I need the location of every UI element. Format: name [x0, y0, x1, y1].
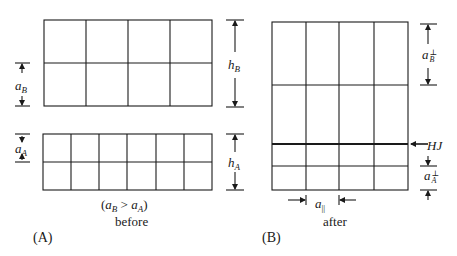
panel-label-b: (B) [262, 231, 281, 245]
label-a-par-sub: || [322, 203, 326, 213]
cond-a1: a [105, 197, 112, 212]
diagram-canvas [0, 0, 457, 256]
label-h-b-base: h [228, 57, 235, 72]
label-a-b-perp: a⊥B [422, 48, 437, 63]
label-a-b-perp-scripts: ⊥B [430, 49, 438, 63]
panel-label-a: (A) [33, 231, 52, 245]
label-a-a-sub: A [22, 148, 28, 158]
cond-s2: A [138, 204, 144, 214]
label-a-par: a|| [315, 197, 325, 210]
label-a-a-perp: a⊥A [424, 169, 439, 184]
grid-a-before [43, 134, 212, 190]
paren-close: ) [143, 197, 147, 212]
grid-b-before [44, 20, 212, 106]
label-a-b-perp-base: a [422, 47, 429, 62]
perp-sub: B [430, 56, 438, 63]
label-hj: HJ [427, 139, 442, 152]
label-a-par-base: a [315, 196, 322, 211]
label-h-b-sub: B [235, 64, 241, 74]
condition-label: (aB > aA) [101, 198, 148, 211]
caption-before: before [115, 215, 148, 228]
label-a-a-perp-scripts: ⊥A [432, 170, 440, 184]
label-a-a: aA [15, 142, 27, 155]
label-a-b: aB [15, 79, 27, 92]
label-h-a-sub: A [235, 162, 241, 172]
cond-s1: B [112, 204, 118, 214]
cond-gt: > [117, 197, 131, 212]
label-a-a-base: a [15, 141, 22, 156]
perp-sub: A [432, 177, 440, 184]
label-h-a: hA [228, 156, 240, 169]
label-h-b: hB [228, 58, 240, 71]
label-h-a-base: h [228, 155, 235, 170]
grid-after [272, 22, 408, 190]
cond-a2: a [131, 197, 138, 212]
label-a-a-perp-base: a [424, 168, 431, 183]
caption-after: after [323, 215, 347, 228]
label-a-b-base: a [15, 78, 22, 93]
label-a-b-sub: B [22, 85, 28, 95]
